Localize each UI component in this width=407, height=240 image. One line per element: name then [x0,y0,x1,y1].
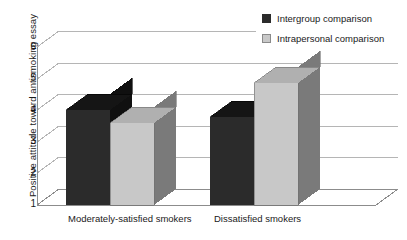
bar-front [210,117,254,205]
bar-group2-intrapersonal [254,51,320,205]
bar-front [254,83,298,205]
legend-swatch-icon [262,34,271,43]
legend-label: Intrapersonal comparison [277,33,384,44]
legend-item-intrapersonal: Intrapersonal comparison [262,30,384,46]
legend-item-intergroup: Intergroup comparison [262,10,384,26]
legend-swatch-icon [262,14,271,23]
x-category-label-dissatisfied-smokers: Dissatisfied smokers [214,213,301,224]
legend: Intergroup comparison Intrapersonal comp… [262,10,384,50]
bar-front [110,123,154,205]
legend-label: Intergroup comparison [277,13,372,24]
x-category-label-moderately-satisfied-smokers: Moderately-satisfied smokers [68,213,192,224]
bar-chart: Positive attitude toward antismoking ess… [0,0,407,240]
bar-front [66,110,110,205]
